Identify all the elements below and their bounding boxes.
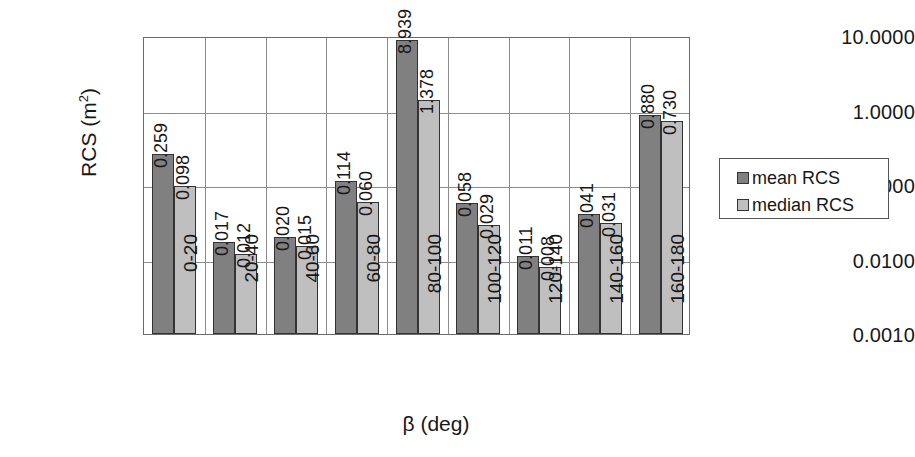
gridline-vertical: [205, 38, 206, 334]
bar-value-label: 0.114: [335, 151, 353, 195]
bar-mean-100-120: [456, 203, 478, 334]
y-tick-label: 1.0000: [783, 102, 915, 122]
bar-value-label: 0.041: [578, 183, 596, 228]
gridline-vertical: [326, 38, 327, 334]
y-tick-label: 0.0100: [783, 251, 915, 271]
legend-swatch-median-icon: [737, 199, 749, 211]
bar-value-label: 0.017: [213, 211, 231, 256]
x-tick-label: 80-100: [425, 234, 444, 344]
bar-value-label: 0.880: [639, 84, 657, 129]
x-tick-label: 40-60: [303, 234, 322, 344]
bar-value-label: 0.060: [357, 170, 375, 215]
bar-value-label: 0.031: [600, 192, 618, 237]
x-tick-label: 120-140: [546, 234, 565, 344]
y-axis-title-close-paren: ): [77, 88, 100, 95]
gridline-vertical: [387, 38, 388, 334]
x-tick-label: 20-40: [242, 234, 261, 344]
y-tick-label: 0.0010: [783, 325, 915, 345]
gridline-vertical: [509, 38, 510, 334]
x-tick-label: 100-120: [485, 234, 504, 344]
legend-entry-median[interactable]: median RCS: [737, 196, 854, 214]
x-tick-label: 160-180: [668, 234, 687, 344]
gridline-vertical: [630, 38, 631, 334]
bar-value-label: 8.939: [396, 9, 414, 54]
legend-label: median RCS: [752, 196, 854, 214]
bar-mean-80-100: [396, 40, 418, 334]
bar-value-label: 1.378: [418, 69, 436, 114]
bar-value-label: 0.011: [517, 227, 535, 271]
rcs-bar-chart: 10.00001.00000.10000.01000.0010 RCS (m2)…: [0, 0, 915, 457]
gridline-vertical: [266, 38, 267, 334]
y-axis-title: RCS (m2): [76, 43, 101, 223]
bar-mean-60-80: [335, 181, 357, 334]
bar-value-label: 0.259: [152, 123, 170, 168]
x-tick-label: 140-160: [607, 234, 626, 344]
bar-mean-40-60: [274, 237, 296, 334]
bar-value-label: 0.730: [661, 90, 679, 135]
x-tick-label: 0-20: [181, 234, 200, 344]
bar-value-label: 0.029: [478, 194, 496, 239]
bar-value-label: 0.058: [456, 172, 474, 217]
y-axis-title-text: RCS (m: [77, 102, 100, 177]
bar-mean-0-20: [152, 154, 174, 334]
bar-mean-20-40: [213, 242, 235, 334]
y-axis-title-superscript: 2: [76, 95, 91, 102]
legend-label: mean RCS: [752, 169, 840, 187]
bar-value-label: 0.020: [274, 206, 292, 251]
x-axis-title: β (deg): [336, 412, 536, 436]
gridline-vertical: [448, 38, 449, 334]
bar-mean-160-180: [639, 115, 661, 334]
legend-swatch-mean-icon: [737, 172, 749, 184]
y-tick-label: 10.0000: [783, 27, 915, 47]
x-tick-label: 60-80: [364, 234, 383, 344]
legend-entry-mean[interactable]: mean RCS: [737, 169, 840, 187]
gridline-vertical: [569, 38, 570, 334]
bar-value-label: 0.098: [174, 155, 192, 200]
chart-legend: mean RCSmedian RCS: [719, 158, 889, 219]
bar-mean-140-160: [578, 214, 600, 334]
